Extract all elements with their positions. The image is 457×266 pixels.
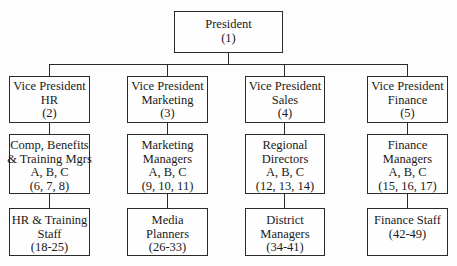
sales-managers-members: A, B, C xyxy=(266,166,304,180)
vp-marketing-title: Vice President xyxy=(131,80,204,94)
hr-staff-box: HR & Training Staff (18-25) xyxy=(9,208,90,256)
hr-staff-line2: Staff xyxy=(37,228,61,242)
marketing-managers-line1: Marketing xyxy=(141,139,193,153)
marketing-managers-line2: Managers xyxy=(143,153,192,167)
vp-finance-title: Vice President xyxy=(371,80,444,94)
connector-vp-bus xyxy=(49,64,408,65)
vp-sales-title: Vice President xyxy=(249,80,322,94)
hr-staff-line1: HR & Training xyxy=(12,214,88,228)
vp-finance-box: Vice President Finance (5) xyxy=(367,76,448,123)
vp-marketing-dept: Marketing xyxy=(141,94,193,108)
finance-managers-line2: Managers xyxy=(383,153,432,167)
president-title: President xyxy=(205,18,252,32)
finance-managers-line1: Finance xyxy=(388,139,428,153)
sales-managers-ids: (12, 13, 14) xyxy=(256,180,314,194)
vp-hr-title: Vice President xyxy=(13,80,86,94)
hr-managers-members: A, B, C xyxy=(30,166,68,180)
president-box: President (1) xyxy=(174,11,283,53)
sales-managers-line1: Regional xyxy=(262,139,307,153)
finance-managers-ids: (15, 16, 17) xyxy=(378,180,436,194)
sales-staff-box: District Managers (34-41) xyxy=(245,208,325,256)
hr-managers-ids: (6, 7, 8) xyxy=(30,180,70,194)
hr-managers-box: Comp, Benefits & Training Mgrs A, B, C (… xyxy=(9,134,90,194)
hr-staff-ids: (18-25) xyxy=(31,241,69,255)
vp-marketing-id: (3) xyxy=(160,107,175,121)
vp-hr-id: (2) xyxy=(42,107,57,121)
hr-managers-line1: Comp, Benefits xyxy=(10,139,88,153)
marketing-managers-members: A, B, C xyxy=(148,166,186,180)
vp-hr-dept: HR xyxy=(41,94,58,108)
marketing-staff-line2: Planners xyxy=(146,228,189,242)
finance-staff-box: Finance Staff (42-49) xyxy=(367,208,448,256)
finance-staff-ids: (42-49) xyxy=(389,228,427,242)
sales-staff-line2: Managers xyxy=(260,228,309,242)
hr-managers-line2: & Training Mgrs xyxy=(7,153,92,167)
president-id: (1) xyxy=(221,32,236,46)
vp-marketing-box: Vice President Marketing (3) xyxy=(127,76,208,123)
vp-sales-box: Vice President Sales (4) xyxy=(245,76,325,123)
marketing-staff-ids: (26-33) xyxy=(149,241,187,255)
org-chart: President (1) Vice President HR (2) Vice… xyxy=(0,0,457,266)
connector-finance-staff xyxy=(407,193,408,209)
marketing-managers-ids: (9, 10, 11) xyxy=(142,180,194,194)
connector-hr-staff xyxy=(49,193,50,209)
connector-marketing-staff xyxy=(167,193,168,209)
marketing-staff-box: Media Planners (26-33) xyxy=(127,208,208,256)
marketing-managers-box: Marketing Managers A, B, C (9, 10, 11) xyxy=(127,134,208,194)
sales-managers-line2: Directors xyxy=(262,153,309,167)
sales-staff-line1: District xyxy=(266,214,304,228)
connector-finance-vp xyxy=(407,64,408,76)
vp-hr-box: Vice President HR (2) xyxy=(9,76,90,123)
connector-hr-vp xyxy=(49,64,50,76)
sales-staff-ids: (34-41) xyxy=(266,241,304,255)
vp-sales-dept: Sales xyxy=(272,94,298,108)
finance-managers-members: A, B, C xyxy=(388,166,426,180)
connector-marketing-vp xyxy=(167,64,168,76)
connector-sales-staff xyxy=(284,193,285,209)
vp-sales-id: (4) xyxy=(278,107,293,121)
finance-staff-line1: Finance Staff xyxy=(374,214,441,228)
vp-finance-dept: Finance xyxy=(388,94,428,108)
vp-finance-id: (5) xyxy=(400,107,415,121)
finance-managers-box: Finance Managers A, B, C (15, 16, 17) xyxy=(367,134,448,194)
connector-sales-vp xyxy=(284,64,285,76)
sales-managers-box: Regional Directors A, B, C (12, 13, 14) xyxy=(245,134,325,194)
marketing-staff-line1: Media xyxy=(152,214,184,228)
